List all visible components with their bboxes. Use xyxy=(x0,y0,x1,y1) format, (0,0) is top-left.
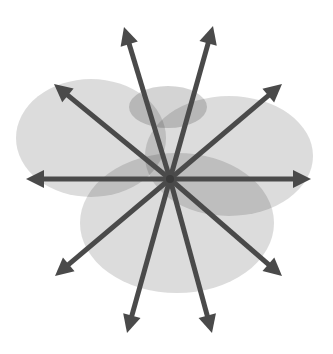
radial-arrows-diagram xyxy=(0,0,333,354)
center-hub xyxy=(166,175,174,183)
